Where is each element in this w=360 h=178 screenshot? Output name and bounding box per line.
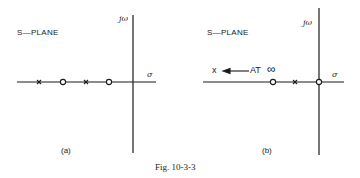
figure-caption: Fig. 10-3-3: [155, 162, 196, 172]
infinity-icon: ∞: [267, 62, 276, 76]
zero-icon: [270, 79, 275, 84]
zero-icon: [60, 79, 65, 84]
panel-label-b: (b): [262, 146, 272, 155]
sigma-label-a: σ: [147, 70, 152, 79]
s-plane-label-a: S—PLANE: [17, 28, 59, 37]
jw-label-a: jω: [119, 14, 128, 23]
jw-label-b: jω: [303, 18, 312, 27]
zero-icon: [106, 79, 111, 84]
s-plane-label-b: S—PLANE: [207, 28, 249, 37]
zero-icon: [316, 79, 321, 84]
arrow-left-icon: [223, 69, 249, 74]
at-infinity-text: AT: [250, 65, 261, 75]
pole-at-infinity-icon: x: [212, 65, 217, 75]
panel-label-a: (a): [61, 146, 71, 155]
sigma-label-b: σ: [332, 70, 337, 79]
